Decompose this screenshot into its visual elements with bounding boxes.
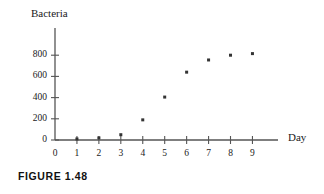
scatter-plot — [0, 0, 324, 194]
x-tick-label: 6 — [177, 148, 197, 158]
y-axis-label: Bacteria — [31, 7, 68, 19]
x-tick-label: 4 — [133, 148, 153, 158]
x-tick-label: 2 — [89, 148, 109, 158]
y-tick-label: 400 — [9, 92, 47, 102]
data-point — [119, 133, 122, 136]
y-tick-label: 800 — [9, 49, 47, 59]
x-tick-label: 3 — [111, 148, 131, 158]
figure-caption: FIGURE 1.48 — [18, 170, 88, 182]
x-tick-label: 8 — [221, 148, 241, 158]
data-point — [185, 71, 188, 74]
axes-group — [55, 28, 278, 140]
x-axis-label: Day — [288, 131, 306, 143]
figure-container: Bacteria Day 0200400600800 0123456789 FI… — [0, 0, 324, 194]
data-point — [75, 137, 78, 140]
y-tick-label: 200 — [9, 113, 47, 123]
data-point — [163, 96, 166, 99]
x-tick-label: 5 — [155, 148, 175, 158]
data-point — [207, 58, 210, 61]
data-point — [229, 54, 232, 57]
x-tick-label: 7 — [199, 148, 219, 158]
x-tick-label: 9 — [242, 148, 262, 158]
data-points-group — [75, 52, 254, 140]
data-point — [251, 52, 254, 55]
y-tick-label: 600 — [9, 70, 47, 80]
data-point — [141, 118, 144, 121]
data-point — [97, 136, 100, 139]
x-tick-label: 1 — [67, 148, 87, 158]
y-tick-label: 0 — [9, 134, 47, 144]
x-tick-label: 0 — [45, 148, 65, 158]
